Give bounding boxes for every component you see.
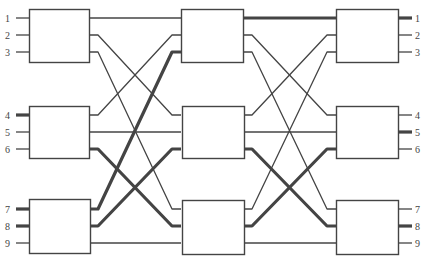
middle-switch-1 <box>182 10 244 63</box>
ingress-switch-2 <box>30 107 90 159</box>
link-middle-to-egress <box>243 35 336 115</box>
middle-switch-2 <box>183 107 245 159</box>
input-label-6: 6 <box>5 144 10 155</box>
ingress-switch-3 <box>30 200 91 254</box>
ingress-switch-1 <box>30 10 90 63</box>
input-label-1: 1 <box>5 13 10 24</box>
clos-network-diagram: 123456789123456789 <box>0 0 424 261</box>
egress-switch-2 <box>337 107 399 159</box>
output-label-5: 5 <box>415 127 420 138</box>
input-label-5: 5 <box>5 127 10 138</box>
link-ingress-to-middle <box>89 35 181 115</box>
input-label-7: 7 <box>5 204 10 215</box>
input-label-8: 8 <box>5 221 10 232</box>
input-label-3: 3 <box>5 47 10 58</box>
output-label-6: 6 <box>415 144 420 155</box>
link-ingress-to-middle <box>89 149 181 226</box>
output-label-3: 3 <box>415 47 420 58</box>
link-middle-to-egress <box>243 149 336 226</box>
switch-boxes-layer <box>30 10 399 255</box>
output-label-2: 2 <box>415 30 420 41</box>
input-label-4: 4 <box>5 110 10 121</box>
output-label-4: 4 <box>415 110 420 121</box>
output-label-1: 1 <box>415 13 420 24</box>
input-label-9: 9 <box>5 238 10 249</box>
output-label-8: 8 <box>415 221 420 232</box>
output-label-7: 7 <box>415 204 420 215</box>
input-label-2: 2 <box>5 30 10 41</box>
egress-switch-3 <box>337 201 399 255</box>
output-label-9: 9 <box>415 238 420 249</box>
middle-switch-3 <box>183 201 245 255</box>
egress-switch-1 <box>337 10 399 63</box>
